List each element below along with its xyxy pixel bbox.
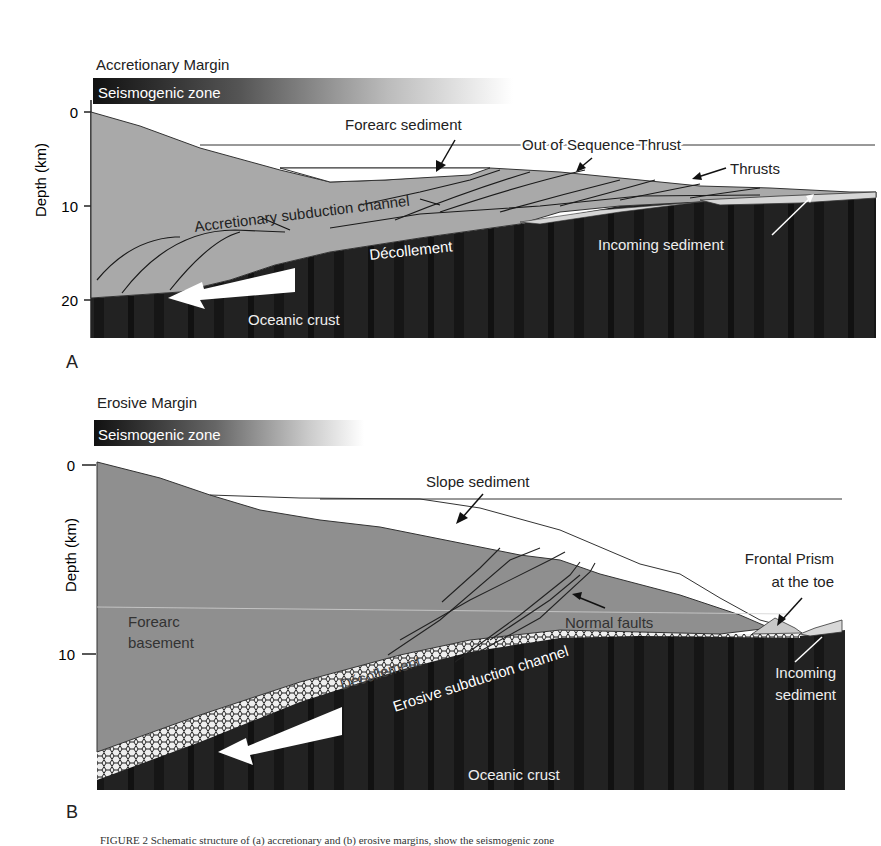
label-normal-faults: Normal faults: [565, 614, 653, 631]
panel-b-letter: B: [66, 802, 78, 822]
y-tick-10: 10: [61, 198, 78, 215]
seismogenic-zone-label: Seismogenic zone: [98, 84, 221, 101]
label-forearc-basement-line1: Forearc: [128, 613, 180, 630]
y-axis-label: Depth (km): [62, 518, 79, 592]
panel-a-title: Accretionary Margin: [96, 56, 229, 73]
label-oceanic-crust: Oceanic crust: [468, 766, 561, 783]
y-axis-label: Depth (km): [32, 143, 49, 217]
panel-a: Accretionary Margin Seismogenic zone 0 1…: [32, 56, 876, 372]
panel-b-title: Erosive Margin: [97, 394, 197, 411]
label-incoming-sediment: Incoming sediment: [598, 236, 725, 253]
y-tick-0: 0: [67, 457, 75, 474]
label-forearc-sediment: Forearc sediment: [345, 116, 463, 133]
label-oceanic-crust: Oceanic crust: [248, 311, 341, 328]
figure-caption: FIGURE 2 Schematic structure of (a) accr…: [100, 834, 554, 846]
label-slope-sediment: Slope sediment: [426, 473, 530, 490]
label-frontal-prism-line2: at the toe: [771, 573, 834, 590]
label-out-of-sequence-thrust: Out of Sequence Thrust: [522, 136, 682, 153]
label-incoming-sediment-line2: sediment: [775, 686, 837, 703]
panel-a-letter: A: [66, 352, 78, 372]
y-tick-0: 0: [70, 104, 78, 121]
label-frontal-prism-line1: Frontal Prism: [745, 550, 834, 567]
y-tick-20: 20: [61, 292, 78, 309]
seismogenic-zone-label: Seismogenic zone: [98, 426, 221, 443]
y-tick-10: 10: [58, 646, 75, 663]
panel-b: Erosive Margin Seismogenic zone 0 10 Dep…: [58, 394, 845, 822]
label-forearc-basement-line2: basement: [128, 634, 195, 651]
label-incoming-sediment-line1: Incoming: [775, 664, 836, 681]
label-thrusts: Thrusts: [730, 160, 780, 177]
